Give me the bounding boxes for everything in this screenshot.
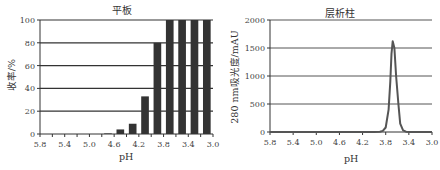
svg-text:3.0: 3.0 (426, 138, 439, 147)
svg-text:3.4: 3.4 (402, 138, 415, 147)
svg-text:20: 20 (25, 107, 35, 116)
svg-text:1000: 1000 (245, 72, 265, 81)
svg-text:3.4: 3.4 (182, 140, 195, 149)
svg-text:5.0: 5.0 (83, 140, 96, 149)
svg-text:5.4: 5.4 (58, 140, 71, 149)
svg-text:4.6: 4.6 (333, 138, 346, 147)
svg-text:5.0: 5.0 (310, 138, 323, 147)
svg-text:4.6: 4.6 (108, 140, 121, 149)
svg-text:5.8: 5.8 (34, 140, 47, 149)
svg-text:3.8: 3.8 (157, 140, 170, 149)
svg-text:60: 60 (25, 62, 35, 71)
svg-text:4.2: 4.2 (356, 138, 369, 147)
svg-text:3.0: 3.0 (207, 140, 220, 149)
svg-text:100: 100 (20, 16, 35, 25)
svg-text:40: 40 (25, 84, 35, 93)
svg-text:80: 80 (25, 39, 35, 48)
svg-text:0: 0 (30, 130, 35, 139)
svg-text:0: 0 (260, 128, 265, 137)
plot-area: 05001000150020005.85.45.04.64.23.83.43.0 (220, 0, 440, 170)
absorbance-line-chart: 层析柱 280 nm吸光度/mAU pH 05001000150020005.8… (220, 0, 440, 170)
svg-text:1500: 1500 (245, 44, 265, 53)
svg-text:3.8: 3.8 (379, 138, 392, 147)
yield-bar-chart: 平板 收率/% pH 0204060801005.85.45.04.64.23.… (0, 0, 220, 170)
svg-text:2000: 2000 (245, 16, 265, 25)
svg-text:5.8: 5.8 (264, 138, 277, 147)
plot-area: 0204060801005.85.45.04.64.23.83.43.0 (0, 0, 220, 170)
svg-text:500: 500 (250, 100, 265, 109)
svg-text:5.4: 5.4 (287, 138, 300, 147)
svg-text:4.2: 4.2 (132, 140, 145, 149)
